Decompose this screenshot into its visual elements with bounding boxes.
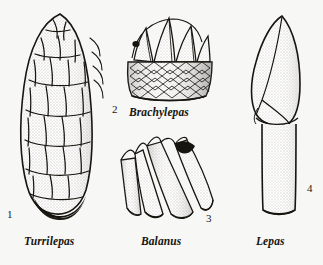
lepas-specimen-icon xyxy=(238,12,318,227)
turrilepas-specimen-icon xyxy=(8,8,113,223)
brachylepas-specimen-icon xyxy=(118,14,218,106)
caption-lepas: Lepas xyxy=(256,235,285,247)
figure-number-1: 1 xyxy=(7,208,13,220)
caption-brachylepas: Brachylepas xyxy=(129,106,189,118)
caption-balanus: Balanus xyxy=(141,235,181,247)
figure-balanus xyxy=(113,132,218,224)
figure-number-3: 3 xyxy=(206,212,212,224)
figure-brachylepas xyxy=(118,14,218,106)
figure-lepas xyxy=(238,12,318,227)
balanus-specimen-icon xyxy=(113,132,218,224)
figure-turrilepas xyxy=(8,8,113,223)
figure-number-2: 2 xyxy=(112,103,118,115)
figure-number-4: 4 xyxy=(307,182,313,194)
caption-turrilepas: Turrilepas xyxy=(24,235,74,247)
illustration-plate: 1 Turrilepas xyxy=(0,0,323,265)
